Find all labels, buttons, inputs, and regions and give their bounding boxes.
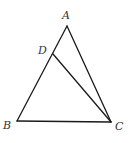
point-label-d: D [37, 44, 47, 57]
segment-dc [53, 54, 111, 122]
segment-bc [17, 121, 111, 122]
vertex-label-c: C [115, 120, 124, 133]
vertex-label-b: B [2, 119, 11, 132]
segment-ab [17, 26, 67, 121]
segment-ac [67, 26, 111, 122]
vertex-label-a: A [61, 9, 70, 22]
triangle-diagram: A B C D [0, 0, 131, 143]
